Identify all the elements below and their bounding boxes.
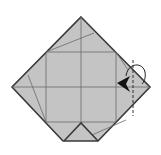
origami-diagram-svg	[0, 0, 161, 155]
origami-diagram	[0, 0, 161, 155]
